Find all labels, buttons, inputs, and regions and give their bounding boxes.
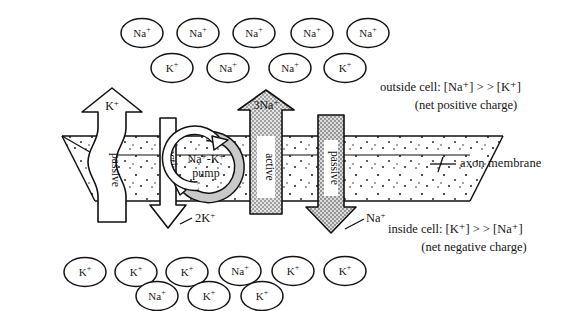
inside-ion-k-0: K+ — [64, 258, 106, 287]
axon-membrane-label: axon membrane — [460, 156, 541, 171]
inside-ion-k-1: K+ — [188, 282, 230, 311]
outside-ion-k-3: K+ — [324, 54, 366, 83]
inside-ion-na-3: Na+ — [219, 257, 261, 286]
outside-caption-line1: outside cell: [Na⁺] > > [K⁺] — [380, 79, 578, 97]
diagram-canvas: K+ passive active Na+-K+ pump — [0, 0, 578, 311]
inside-caption-line2: (net negative charge) — [388, 239, 578, 257]
outside-caption-line2: (net positive charge) — [380, 97, 578, 115]
outside-ion-na-1: Na+ — [177, 19, 219, 48]
inside-ion-k-2: K+ — [241, 282, 283, 311]
outside-ion-na-1: Na+ — [207, 54, 249, 83]
inside-caption-line1: inside cell: [K⁺] > > [Na⁺] — [388, 221, 578, 239]
outside-ion-na-2: Na+ — [233, 19, 275, 48]
outside-ion-na-2: Na+ — [269, 54, 311, 83]
inside-ion-row-2: Na+K+K+ — [136, 282, 283, 311]
inside-cell-caption: inside cell: [K⁺] > > [Na⁺] (net negativ… — [388, 221, 578, 257]
inside-ion-na-0: Na+ — [136, 282, 178, 311]
outside-ion-row-1: Na+Na+Na+Na+Na+ — [121, 19, 389, 48]
outside-cell-caption: outside cell: [Na⁺] > > [K⁺] (net positi… — [380, 79, 578, 115]
outside-ion-na-4: Na+ — [347, 19, 389, 48]
inside-ion-k-5: K+ — [324, 257, 366, 286]
outside-ion-k-0: K+ — [151, 54, 193, 83]
outside-ion-row-2: K+Na+Na+K+ — [151, 54, 366, 83]
inside-ion-k-4: K+ — [272, 257, 314, 286]
outside-ion-na-0: Na+ — [121, 19, 163, 48]
outside-ion-na-3: Na+ — [291, 19, 333, 48]
